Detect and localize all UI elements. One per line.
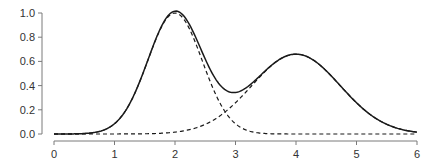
y-tick-label: 0.0 [20, 128, 35, 140]
x-tick-label: 0 [51, 148, 57, 160]
y-tick-label: 0.2 [20, 104, 35, 116]
component-1-dashed-line [54, 13, 417, 134]
x-tick-label: 4 [293, 148, 299, 160]
curves [54, 11, 417, 134]
x-tick-label: 2 [172, 148, 178, 160]
y-tick-label: 0.8 [20, 31, 35, 43]
y-tick-label: 1.0 [20, 7, 35, 19]
component-2-dashed-line [54, 54, 417, 134]
x-tick-label: 3 [232, 148, 238, 160]
x-tick-label: 6 [414, 148, 420, 160]
x-tick-label: 1 [111, 148, 117, 160]
gaussian-mixture-chart: 0.00.20.40.60.81.0 0123456 [0, 0, 436, 166]
y-axis: 0.00.20.40.60.81.0 [20, 7, 42, 140]
sum-solid-line [54, 11, 417, 134]
y-tick-label: 0.6 [20, 55, 35, 67]
y-tick-label: 0.4 [20, 80, 35, 92]
x-tick-label: 5 [353, 148, 359, 160]
x-axis: 0123456 [51, 141, 420, 160]
